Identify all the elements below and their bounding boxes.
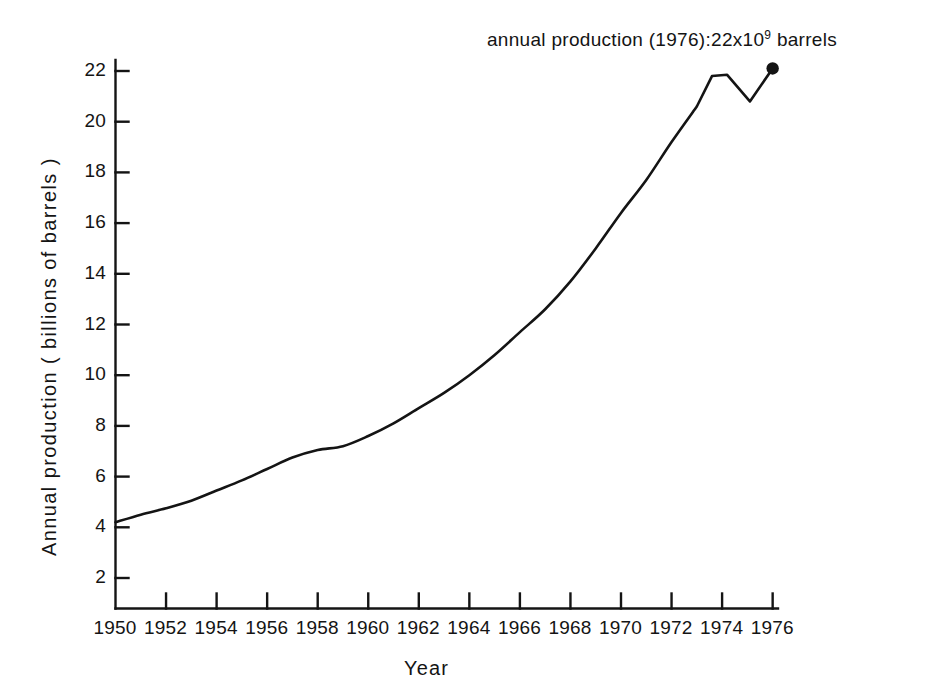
x-tick-label: 1956 xyxy=(245,617,288,639)
x-axis-ticks xyxy=(166,594,773,609)
y-tick-label: 14 xyxy=(62,262,106,284)
y-tick-label: 12 xyxy=(62,313,106,335)
x-tick-label: 1968 xyxy=(548,617,591,639)
x-tick-label: 1966 xyxy=(498,617,541,639)
x-tick-label: 1958 xyxy=(296,617,339,639)
x-tick-label: 1970 xyxy=(599,617,642,639)
annotation-prefix: annual production (1976):22x10 xyxy=(487,29,764,50)
y-tick-label: 8 xyxy=(62,414,106,436)
x-tick-label: 1960 xyxy=(346,617,389,639)
annotation-suffix: barrels xyxy=(771,29,837,50)
y-tick-label: 18 xyxy=(62,160,106,182)
y-tick-label: 10 xyxy=(62,363,106,385)
x-tick-label: 1976 xyxy=(751,617,794,639)
y-tick-label: 16 xyxy=(62,211,106,233)
x-tick-label: 1950 xyxy=(94,617,137,639)
y-axis-ticks xyxy=(116,71,129,578)
y-tick-label: 6 xyxy=(62,465,106,487)
endpoint-marker-1976 xyxy=(766,62,778,74)
y-axis-title: Annual production ( billions of barrels … xyxy=(38,157,61,556)
production-line-series xyxy=(116,68,773,522)
x-tick-label: 1972 xyxy=(650,617,693,639)
y-tick-label: 4 xyxy=(62,515,106,537)
x-tick-label: 1954 xyxy=(195,617,238,639)
x-tick-label: 1952 xyxy=(144,617,187,639)
y-tick-label: 2 xyxy=(62,566,106,588)
chart-figure: annual production (1976):22x109 barrels … xyxy=(0,0,931,694)
x-tick-label: 1974 xyxy=(700,617,743,639)
x-tick-label: 1964 xyxy=(447,617,490,639)
production-annotation: annual production (1976):22x109 barrels xyxy=(487,28,837,51)
x-tick-label: 1962 xyxy=(397,617,440,639)
x-axis-title: Year xyxy=(404,657,449,680)
y-tick-label: 22 xyxy=(62,59,106,81)
y-tick-label: 20 xyxy=(62,110,106,132)
line-chart-canvas xyxy=(0,0,931,694)
